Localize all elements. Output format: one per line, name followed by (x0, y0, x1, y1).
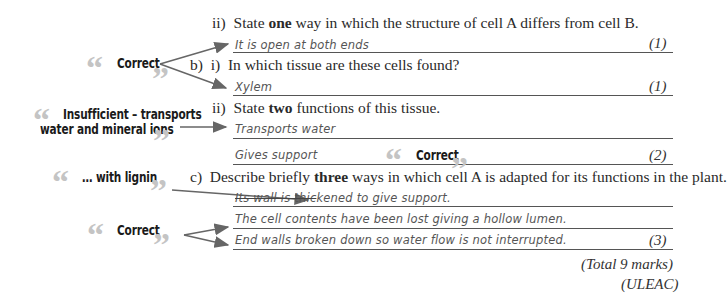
close-quote-icon: ” (150, 174, 167, 208)
open-quote-icon: “ (385, 143, 402, 177)
question-b-i: b) i) In which tissue are these cells fo… (190, 56, 459, 74)
mark-b-i: (1) (649, 78, 667, 95)
answer-rule (233, 249, 673, 250)
open-quote-icon: “ (52, 165, 69, 199)
answer-c-2: The cell contents have been lost giving … (235, 212, 567, 226)
answer-c-3: End walls broken down so water flow is n… (235, 233, 567, 247)
answer-rule (233, 95, 673, 96)
total-marks: (Total 9 marks) (581, 256, 673, 273)
answer-rule (233, 228, 673, 229)
mark-c: (3) (649, 232, 667, 249)
open-quote-icon: “ (86, 51, 103, 85)
close-quote-icon: ” (153, 228, 170, 262)
open-quote-icon: “ (87, 218, 104, 252)
arrow-icon (184, 235, 228, 245)
mark-a-ii: (1) (649, 35, 667, 52)
close-quote-icon: ” (153, 124, 170, 158)
answer-c-1: Its wall is thickened to give support. (235, 191, 451, 205)
answer-a-ii: It is open at both ends (235, 38, 369, 52)
answer-b-ii-1: Transports water (235, 122, 335, 136)
answer-rule (233, 138, 673, 139)
answer-rule (233, 52, 673, 53)
close-quote-icon: ” (451, 152, 468, 186)
answer-rule (233, 206, 673, 207)
mark-b-ii: (2) (649, 147, 667, 164)
arrow-icon (184, 227, 228, 235)
answer-b-ii-2: Gives support (235, 148, 317, 162)
close-quote-icon: ” (152, 62, 169, 96)
question-number: ii) (212, 14, 226, 31)
answer-b-i: Xylem (235, 80, 272, 94)
question-b-ii: ii) State two functions of this tissue. (212, 99, 440, 117)
exam-board: (ULEAC) (621, 276, 679, 293)
question-a-ii: ii) State one way in which the structure… (212, 14, 639, 32)
